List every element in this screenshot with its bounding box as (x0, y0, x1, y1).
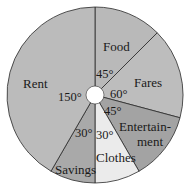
label-entertainment-1: Entertain- (119, 119, 171, 134)
label-fares: Fares (134, 75, 162, 90)
angle-food: 45° (96, 67, 114, 81)
label-entertainment-2: ment (137, 134, 163, 149)
center-hole (86, 86, 104, 104)
pie-chart: Food Fares Entertain- ment Clothes Savin… (0, 0, 193, 187)
angle-savings: 30° (75, 126, 93, 140)
angle-clothes: 30° (96, 128, 114, 142)
label-rent: Rent (23, 76, 48, 91)
label-food: Food (103, 39, 130, 54)
label-savings: Savings (55, 162, 96, 177)
angle-fares: 60° (110, 87, 128, 101)
angle-entertainment: 45° (104, 104, 122, 118)
label-clothes: Clothes (96, 150, 136, 165)
angle-rent: 150° (58, 90, 82, 104)
